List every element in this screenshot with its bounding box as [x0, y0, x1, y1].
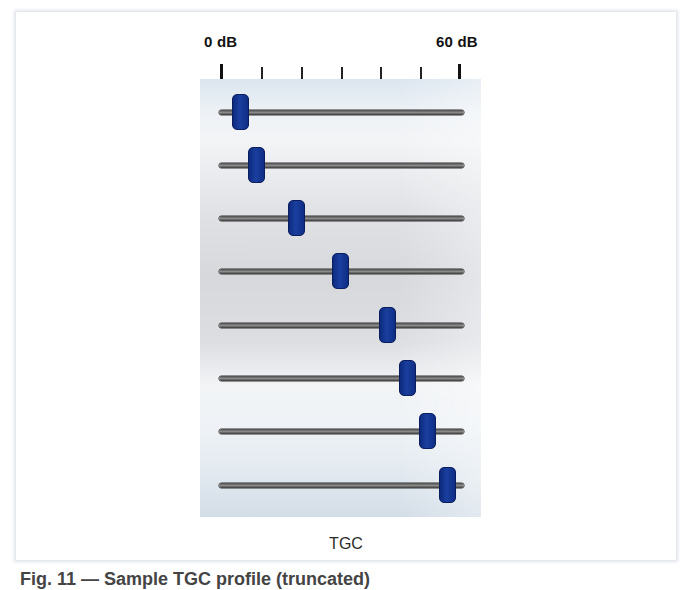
tgc-slider-5[interactable] — [219, 306, 464, 346]
slider-knob[interactable] — [419, 413, 436, 449]
slider-knob[interactable] — [379, 307, 396, 343]
slider-knob[interactable] — [332, 253, 349, 289]
slider-knob[interactable] — [248, 147, 265, 183]
slider-track[interactable] — [219, 323, 464, 328]
scale-max-label: 60 dB — [436, 33, 478, 50]
slider-track[interactable] — [219, 216, 464, 221]
slider-knob[interactable] — [439, 467, 456, 503]
tgc-slider-1[interactable] — [219, 93, 464, 133]
slider-knob[interactable] — [288, 200, 305, 236]
tgc-slider-8[interactable] — [219, 466, 464, 506]
figure-caption: Fig. 11 — Sample TGC profile (truncated) — [20, 569, 370, 590]
tgc-slider-4[interactable] — [219, 252, 464, 292]
slider-track[interactable] — [219, 376, 464, 381]
tgc-slider-2[interactable] — [219, 146, 464, 186]
tgc-slider-3[interactable] — [219, 199, 464, 239]
slider-track[interactable] — [219, 110, 464, 115]
slider-track[interactable] — [219, 483, 464, 488]
slider-knob[interactable] — [399, 360, 416, 396]
tgc-slider-6[interactable] — [219, 359, 464, 399]
tgc-label: TGC — [0, 535, 692, 553]
tgc-slider-7[interactable] — [219, 412, 464, 452]
slider-knob[interactable] — [232, 94, 249, 130]
scale-min-label: 0 dB — [204, 33, 237, 50]
